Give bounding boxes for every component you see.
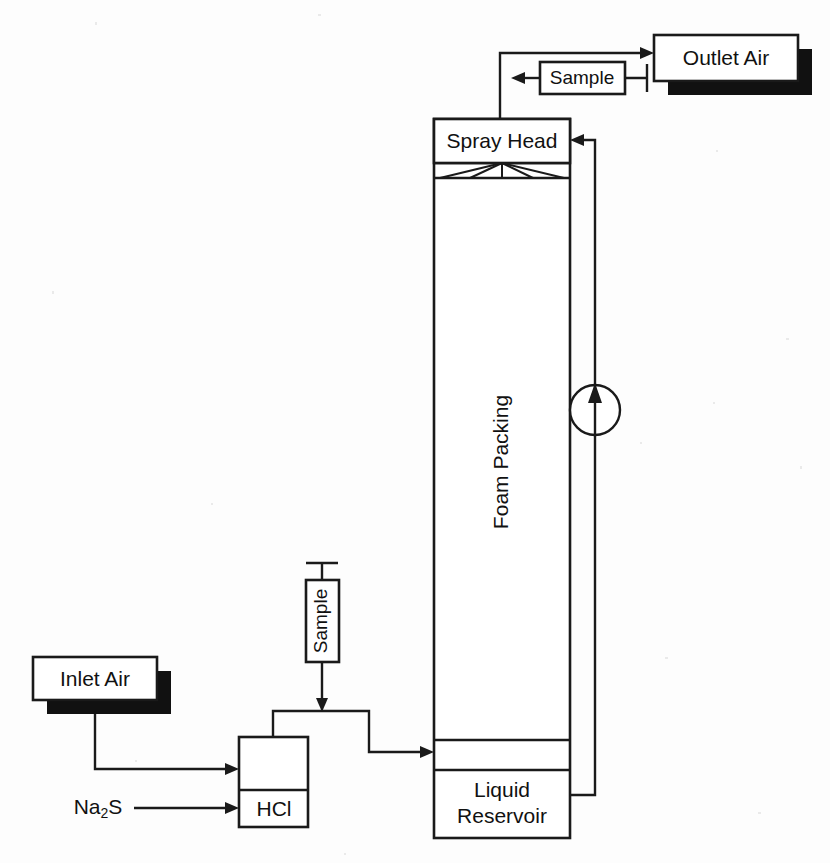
arrowhead-gas-into-column — [420, 746, 434, 758]
process-flow-diagram: Spray Head Foam Packing Liquid Reservoir… — [0, 0, 830, 863]
foam-packing-label: Foam Packing — [489, 395, 512, 529]
na2s-label-tail: S — [108, 795, 122, 818]
sample-top-label: Sample — [550, 67, 614, 88]
inlet-air-label: Inlet Air — [60, 667, 130, 690]
liquid-reservoir-label-line1: Liquid — [474, 778, 530, 801]
liquid-reservoir-label-line2: Reservoir — [457, 804, 547, 827]
pump-icon — [570, 383, 620, 435]
hcl-label: HCl — [257, 797, 292, 820]
na2s-label-sub: 2 — [101, 805, 109, 821]
arrowhead-recycle-into-column — [570, 134, 584, 146]
flow-diagram-canvas: Spray Head Foam Packing Liquid Reservoir… — [0, 0, 830, 863]
arrowhead-outlet-air-inlet — [640, 47, 654, 59]
stream-outlet-air-to-sample — [625, 64, 647, 92]
arrowhead-sample-return — [511, 72, 525, 84]
na2s-label: Na2S — [74, 795, 123, 821]
sample-mid-label: Sample — [310, 589, 331, 653]
stream-inlet-air-to-hcl — [95, 714, 228, 769]
na2s-label-main: Na — [74, 795, 101, 818]
arrowhead-na2s-into-hcl — [225, 802, 239, 814]
stream-recycle-liquid — [570, 140, 595, 795]
outlet-air-label: Outlet Air — [683, 46, 769, 69]
spray-head-label: Spray Head — [447, 129, 558, 152]
arrowhead-inlet-air-into-hcl — [225, 763, 239, 775]
scan-speckle — [52, 14, 802, 855]
